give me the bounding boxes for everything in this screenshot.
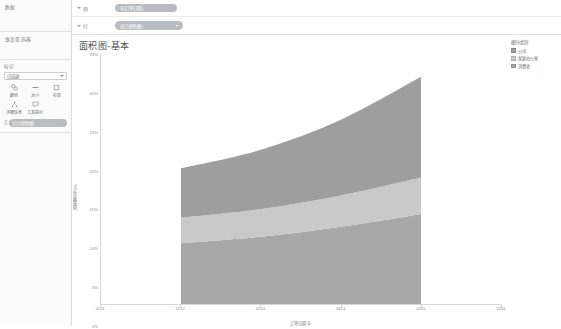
rows-shelf-label-wrap: 行	[77, 22, 115, 29]
y-axis-tick: 10%	[90, 246, 98, 251]
chart-container: 面积图-基本 销售额 总计 % 0%5%10%15%20%25%30%35% 2…	[72, 35, 507, 326]
chart-title: 面积图-基本	[72, 35, 507, 54]
area-chart-svg	[101, 54, 501, 304]
legend-item-label: 公司	[518, 48, 526, 54]
plot-column: 201120122013201420152016 订单日期 年	[100, 54, 501, 326]
legend-swatch	[511, 48, 516, 53]
x-axis-tick: 2011	[95, 306, 104, 311]
dimensions-pane[interactable]: 维度筛选器	[0, 32, 71, 60]
y-axis-tick: 15%	[90, 207, 98, 212]
x-axis-tick: 2014	[336, 306, 345, 311]
marks-detail-label: 详细信息	[6, 109, 22, 115]
marks-measure-pill[interactable]: 总计(销售额)	[9, 119, 67, 127]
legend-title: 细分/类别	[511, 39, 557, 45]
main-area: 列 年(订单日期) 行 总计(销售额) 面积图-基本	[72, 0, 561, 326]
marks-measure-pill-label: 总计(销售额)	[12, 120, 35, 126]
columns-pill-label: 年(订单日期)	[120, 5, 143, 11]
marks-size-button[interactable]: 大小	[25, 84, 45, 98]
legend-item[interactable]: 消费者	[511, 63, 557, 69]
y-axis-title: 销售额 总计 %	[72, 54, 80, 326]
x-axis-tick: 2012	[176, 306, 185, 311]
size-icon	[32, 84, 39, 91]
x-axis-title: 订单日期 年	[100, 319, 501, 326]
y-axis-tick: 25%	[90, 129, 98, 134]
chevron-down-icon	[176, 25, 178, 27]
legend-swatch	[511, 56, 516, 61]
data-pane-label: 数据	[5, 4, 66, 10]
mark-type-select[interactable]: 已自动	[4, 72, 67, 80]
marks-button-row-2: 详细信息 工具提示	[4, 101, 67, 115]
y-axis-tick: 35%	[90, 52, 98, 57]
rows-shelf-label: 行	[83, 22, 88, 29]
legend-item[interactable]: 家庭办公室	[511, 55, 557, 61]
dimensions-pane-label: 维度筛选器	[5, 36, 66, 42]
x-axis-tick: 2016	[496, 306, 505, 311]
rows-pill-label: 总计(销售额)	[120, 23, 143, 29]
marks-detail-button[interactable]: 详细信息	[4, 101, 24, 115]
label-icon	[53, 84, 60, 91]
marks-label-button[interactable]: 标签	[47, 84, 67, 98]
marks-tooltip-label: 工具提示	[27, 109, 43, 115]
mark-type-value: 已自动	[7, 73, 19, 79]
y-axis-tick: 0%	[92, 324, 98, 329]
legend-item-label: 家庭办公室	[518, 55, 538, 61]
marks-pill-row: ⣿ 总计(销售额)	[4, 119, 67, 127]
y-axis-tick: 30%	[90, 90, 98, 95]
marks-color-button[interactable]: 颜色	[4, 84, 24, 98]
marks-card-label: 标记	[4, 63, 67, 69]
tooltip-icon	[32, 101, 39, 108]
left-panel: 数据 维度筛选器 标记 已自动 颜色	[0, 0, 72, 326]
columns-shelf-label-wrap: 列	[77, 5, 115, 12]
marks-size-label: 大小	[31, 92, 39, 98]
color-icon	[11, 84, 18, 91]
marks-color-label: 颜色	[10, 92, 18, 98]
plot-wrapper: 销售额 总计 % 0%5%10%15%20%25%30%35% 20112012…	[72, 54, 507, 326]
columns-pill[interactable]: 年(订单日期)	[115, 4, 177, 13]
drag-handle-icon[interactable]: ⣿	[4, 120, 7, 125]
columns-shelf[interactable]: 列 年(订单日期)	[72, 0, 561, 17]
visualization-area: 面积图-基本 销售额 总计 % 0%5%10%15%20%25%30%35% 2…	[72, 35, 561, 326]
y-axis: 0%5%10%15%20%25%30%35%	[80, 54, 100, 326]
data-pane[interactable]: 数据	[0, 0, 71, 32]
marks-card: 标记 已自动 颜色 大小	[0, 60, 71, 133]
rows-shelf[interactable]: 行 总计(销售额)	[72, 17, 561, 34]
marks-tooltip-button[interactable]: 工具提示	[25, 101, 45, 115]
detail-icon	[11, 101, 18, 108]
marks-button-row-1: 颜色 大小 标签	[4, 84, 67, 98]
color-legend: 细分/类别 公司家庭办公室消费者	[507, 35, 561, 326]
chevron-down-icon	[60, 75, 64, 77]
shelves: 列 年(订单日期) 行 总计(销售额)	[72, 0, 561, 35]
legend-item-label: 消费者	[518, 63, 530, 69]
legend-items: 公司家庭办公室消费者	[511, 48, 557, 70]
plot-area[interactable]	[100, 54, 501, 304]
x-axis-tick: 2015	[416, 306, 425, 311]
legend-swatch	[511, 64, 516, 69]
x-axis: 201120122013201420152016	[100, 304, 501, 319]
chevron-down-icon	[77, 7, 81, 9]
rows-pill[interactable]: 总计(销售额)	[115, 21, 183, 30]
marks-label-label: 标签	[53, 92, 61, 98]
columns-shelf-label: 列	[83, 5, 88, 12]
x-axis-tick: 2013	[256, 306, 265, 311]
y-axis-tick: 20%	[90, 168, 98, 173]
marks-spacer	[47, 101, 67, 115]
chevron-down-icon	[77, 25, 81, 27]
legend-item[interactable]: 公司	[511, 48, 557, 54]
y-axis-tick: 5%	[92, 285, 98, 290]
